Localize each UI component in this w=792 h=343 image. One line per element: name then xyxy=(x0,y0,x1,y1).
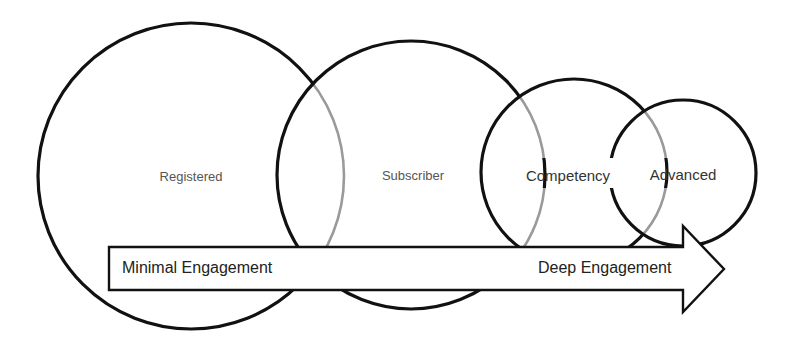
label-registered: Registered xyxy=(160,170,223,183)
label-advanced: Advanced xyxy=(650,167,717,182)
label-competency: Competency xyxy=(526,168,610,183)
arrow-start-label: Minimal Engagement xyxy=(122,260,272,276)
arrow-end-label: Deep Engagement xyxy=(538,260,671,276)
label-subscriber: Subscriber xyxy=(382,169,444,182)
